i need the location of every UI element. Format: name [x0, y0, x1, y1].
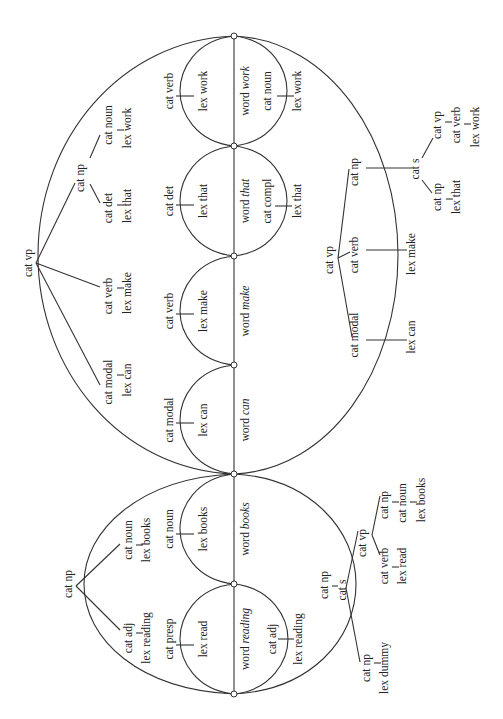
np-tree-lower-left: cat np cat noun lex books cat adj lex re…: [62, 517, 153, 663]
np-outer-arc-left: [84, 474, 234, 694]
left-cat-2: cat det: [163, 185, 175, 216]
vp2-np: cat np: [348, 158, 361, 186]
word-labels: word work word that word make word can w…: [239, 65, 252, 670]
np-noun-lex: lex work: [121, 107, 133, 148]
right-cat-6: cat adj: [266, 624, 279, 654]
node-6: [231, 691, 237, 697]
np-adj: cat adj: [122, 623, 135, 653]
vp2-verb-lex: lex make: [405, 233, 417, 275]
word-label-work: word work: [239, 65, 251, 115]
s-np-lex: lex that: [450, 179, 462, 214]
s2-vp: cat vp: [356, 529, 369, 557]
left-lex-5: lex books: [197, 506, 209, 551]
np-noun-books-lex: lex books: [140, 517, 152, 562]
right-cat-2: cat compl: [261, 178, 274, 223]
node-0: [231, 33, 237, 39]
vp2-s: cat s: [409, 158, 421, 179]
s-tree-lower-right: cat np cat s cat vp cat np cat noun lex …: [318, 477, 427, 694]
np-det-lex: lex that: [121, 188, 133, 223]
vp-np: cat np: [74, 164, 87, 192]
vp-verb: cat verb: [102, 277, 114, 314]
s2-vp-books: lex books: [415, 477, 427, 522]
s-vp-lex: lex work: [469, 106, 481, 147]
s2-vp-np: cat np: [378, 491, 391, 519]
left-lex-1: lex work: [197, 70, 209, 111]
word-graph-diagram: word work word that word make word can w…: [0, 0, 503, 719]
np-noun-books: cat noun: [122, 520, 134, 560]
left-cat-3: cat verb: [163, 292, 175, 329]
vp2-modal-lex: lex can: [405, 320, 417, 353]
right-cat-1: cat noun: [261, 71, 273, 111]
s2-verb-lex: lex read: [396, 547, 408, 584]
s2-np-dummy: cat np: [360, 654, 373, 682]
word-label-that: word that: [239, 178, 251, 223]
left-cat-1: cat verb: [163, 72, 175, 109]
s-np: cat np: [431, 183, 444, 211]
vp2-root: cat vp: [323, 246, 336, 274]
s2-vp-noun: cat noun: [396, 483, 408, 523]
vp2-verb: cat verb: [348, 236, 360, 273]
vp-verb-lex: lex make: [121, 272, 133, 314]
np-det: cat det: [102, 192, 114, 223]
node-2: [231, 253, 237, 259]
word-label-make: word make: [239, 286, 251, 337]
vp-outer-arc-right: [234, 36, 398, 474]
left-lex-2: lex that: [197, 183, 209, 218]
vp2-modal: cat modal: [348, 312, 360, 357]
word-label-reading: word reading: [239, 608, 252, 670]
s-vp: cat vp: [431, 111, 444, 139]
s-vp-verb: cat verb: [450, 106, 462, 143]
word-label-can: word can: [239, 398, 251, 441]
node-1: [231, 143, 237, 149]
left-cat-5: cat noun: [163, 509, 175, 549]
np-noun: cat noun: [102, 105, 114, 145]
np-adj-lex: lex reading: [140, 612, 153, 664]
vp-modal: cat modal: [102, 359, 114, 404]
left-cat-6: cat presp: [163, 618, 176, 659]
left-lex-labels: cat verb lex work cat det lex that cat v…: [163, 70, 209, 659]
node-3: [231, 362, 237, 368]
right-arc-ticks: [275, 96, 294, 639]
vp-root: cat vp: [22, 249, 35, 277]
s2-verb: cat verb: [378, 547, 390, 584]
right-lex-6: lex reading: [292, 613, 305, 665]
left-lex-4: lex can: [197, 403, 209, 436]
vp-tree-upper-right: cat vp cat np cat s cat vp cat verb lex …: [323, 106, 481, 357]
vp-modal-lex: lex can: [121, 363, 133, 396]
right-lex-2: lex that: [291, 183, 303, 218]
np-root: cat np: [62, 570, 75, 598]
vp-tree-upper-left: cat vp cat np cat noun lex work cat det …: [22, 105, 133, 404]
word-label-books: word books: [239, 502, 251, 556]
left-lex-6: lex read: [197, 620, 209, 657]
node-5: [231, 581, 237, 587]
left-cat-4: cat modal: [163, 397, 175, 442]
left-lex-3: lex make: [197, 290, 209, 332]
s2-np-label: cat np: [318, 571, 331, 599]
right-lex-1: lex work: [291, 70, 303, 111]
node-4: [231, 471, 237, 477]
s2-np-dummy-lex: lex dummy: [378, 642, 391, 694]
